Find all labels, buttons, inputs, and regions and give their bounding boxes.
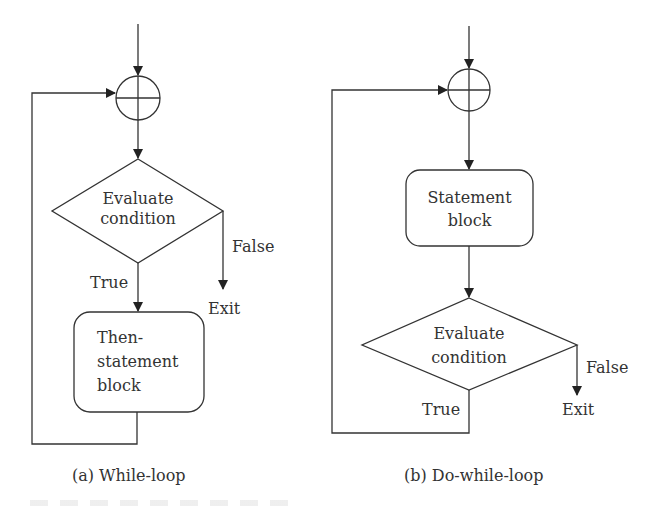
false-label-a: False bbox=[232, 237, 274, 257]
block-line1: Then- bbox=[97, 326, 178, 350]
junction-circle bbox=[448, 69, 490, 111]
exit-label-a: Exit bbox=[208, 299, 240, 319]
block-label-a: Then- statement block bbox=[97, 326, 178, 398]
block-line1: Statement bbox=[406, 186, 533, 209]
exit-label-b: Exit bbox=[562, 400, 594, 420]
decision-label-a: Evaluate condition bbox=[88, 189, 188, 229]
decision-label-b: Evaluate condition bbox=[419, 322, 519, 370]
decision-line2: condition bbox=[419, 346, 519, 370]
false-label-b: False bbox=[586, 358, 628, 378]
block-line3: block bbox=[97, 374, 178, 398]
true-label-a: True bbox=[90, 273, 128, 293]
junction-circle bbox=[116, 76, 160, 120]
caption-a: (a) While-loop bbox=[72, 466, 186, 486]
flowchart-canvas bbox=[0, 0, 648, 514]
block-line2: block bbox=[406, 209, 533, 232]
faint-text-remnant bbox=[30, 500, 300, 506]
decision-line1: Evaluate bbox=[419, 322, 519, 346]
true-label-b: True bbox=[422, 400, 460, 420]
decision-line1: Evaluate bbox=[88, 189, 188, 209]
caption-b: (b) Do-while-loop bbox=[404, 466, 543, 486]
block-label-b: Statement block bbox=[406, 186, 533, 232]
block-line2: statement bbox=[97, 350, 178, 374]
decision-line2: condition bbox=[88, 209, 188, 229]
